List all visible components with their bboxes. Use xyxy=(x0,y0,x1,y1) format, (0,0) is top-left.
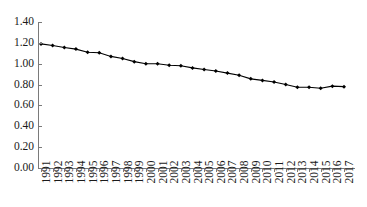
x-axis-tick-mark xyxy=(321,168,322,172)
y-axis-tick-mark xyxy=(38,64,42,65)
x-axis-tick-mark xyxy=(53,168,54,172)
data-point xyxy=(202,67,206,71)
x-axis-tick-mark xyxy=(251,168,252,172)
data-point xyxy=(156,62,160,66)
y-axis-tick-mark xyxy=(38,105,42,106)
x-axis-tick-mark xyxy=(274,168,275,172)
x-axis-tick-mark xyxy=(146,168,147,172)
x-axis-tick-mark xyxy=(193,168,194,172)
x-axis-tick-mark xyxy=(99,168,100,172)
data-point xyxy=(191,66,195,70)
data-point xyxy=(225,71,229,75)
data-point xyxy=(272,80,276,84)
x-axis-tick-mark xyxy=(309,168,310,172)
data-point xyxy=(249,77,253,81)
x-axis-tick-mark xyxy=(41,168,42,172)
x-axis-tick-mark xyxy=(88,168,89,172)
x-axis-tick-mark xyxy=(332,168,333,172)
x-axis-tick-mark xyxy=(169,168,170,172)
data-point xyxy=(109,54,113,58)
data-point xyxy=(295,85,299,89)
x-axis-tick-mark xyxy=(286,168,287,172)
x-axis-tick-mark xyxy=(181,168,182,172)
x-axis-tick-mark xyxy=(158,168,159,172)
x-axis-tick-mark xyxy=(134,168,135,172)
x-axis-tick-mark xyxy=(64,168,65,172)
data-point xyxy=(319,86,323,90)
data-point xyxy=(214,69,218,73)
data-point xyxy=(284,83,288,87)
x-axis-tick-mark xyxy=(204,168,205,172)
data-point xyxy=(330,84,334,88)
chart-figure: 0.000.200.400.600.801.001.201.40 1991199… xyxy=(0,0,367,207)
y-axis-tick-mark xyxy=(38,85,42,86)
y-axis-tick-mark xyxy=(38,126,42,127)
data-point xyxy=(74,47,78,51)
y-axis-tick-mark xyxy=(38,147,42,148)
data-point xyxy=(86,50,90,54)
y-axis-tick-mark xyxy=(38,43,42,44)
x-axis-tick-mark xyxy=(111,168,112,172)
data-point xyxy=(179,64,183,68)
x-axis-tick-mark xyxy=(262,168,263,172)
data-point xyxy=(342,85,346,89)
x-axis-tick-mark xyxy=(123,168,124,172)
x-axis-tick-mark xyxy=(216,168,217,172)
data-point xyxy=(237,73,241,77)
data-point xyxy=(260,78,264,82)
data-point xyxy=(144,62,148,66)
x-axis-tick-mark xyxy=(297,168,298,172)
data-point xyxy=(97,51,101,55)
data-point xyxy=(132,60,136,64)
x-axis-tick-mark xyxy=(76,168,77,172)
data-point xyxy=(121,57,125,61)
data-point xyxy=(167,63,171,67)
data-series-layer xyxy=(0,0,367,207)
data-point xyxy=(62,46,66,50)
y-axis-tick-mark xyxy=(38,22,42,23)
series-markers xyxy=(39,42,346,90)
x-axis-tick-mark xyxy=(239,168,240,172)
data-point xyxy=(51,43,55,47)
x-axis-tick-mark xyxy=(344,168,345,172)
data-point xyxy=(307,85,311,89)
x-axis-tick-mark xyxy=(227,168,228,172)
